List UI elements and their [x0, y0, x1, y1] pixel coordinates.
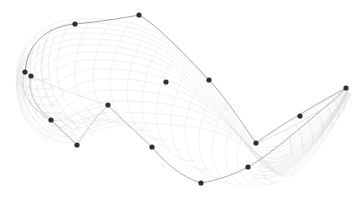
control-point[interactable] [105, 102, 110, 107]
control-point[interactable] [297, 113, 302, 118]
control-point[interactable] [149, 144, 154, 149]
control-point[interactable] [72, 21, 77, 26]
iso-curves-right-taper [252, 91, 348, 179]
iso-curves-v [17, 19, 351, 177]
control-point[interactable] [163, 79, 168, 84]
control-point[interactable] [206, 77, 211, 82]
control-point[interactable] [253, 140, 258, 145]
control-point[interactable] [198, 180, 203, 185]
control-point[interactable] [48, 117, 53, 122]
control-point[interactable] [136, 12, 141, 17]
control-point[interactable] [28, 73, 33, 78]
surface-wireframe-canvas[interactable] [0, 0, 361, 197]
control-point[interactable] [74, 142, 79, 147]
control-point[interactable] [245, 164, 250, 169]
control-point[interactable] [22, 69, 27, 74]
surface-viewport[interactable] [0, 0, 361, 197]
control-point[interactable] [343, 85, 348, 90]
control-point-set[interactable] [22, 12, 348, 185]
